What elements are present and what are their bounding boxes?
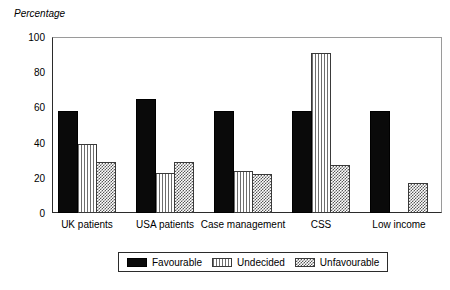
x-axis-label-uk-patients: UK patients: [61, 219, 113, 230]
legend-swatch-unfavourable-icon: [295, 258, 315, 267]
bar-unfavourable-usa-patients: [174, 162, 194, 213]
y-axis-tick-label: 80: [0, 67, 45, 78]
bar-favourable-case-management: [214, 111, 234, 213]
y-axis-tick-label: 100: [0, 32, 45, 43]
legend-label: Unfavourable: [320, 257, 379, 268]
x-axis-label-usa-patients: USA patients: [136, 219, 194, 230]
bar-favourable-css: [292, 111, 312, 213]
x-axis-label-low-income: Low income: [372, 219, 425, 230]
legend-entry-unfavourable: Unfavourable: [295, 257, 379, 268]
x-axis-label-css: CSS: [311, 219, 332, 230]
bar-favourable-low-income: [370, 111, 390, 213]
x-axis-label-case-management: Case management: [201, 219, 286, 230]
y-axis-tick-label: 20: [0, 172, 45, 183]
y-axis-tick-label: 0: [0, 208, 45, 219]
legend-entry-favourable: Favourable: [127, 257, 202, 268]
chart-legend: FavourableUndecidedUnfavourable: [118, 252, 388, 272]
legend-label: Favourable: [152, 257, 202, 268]
bar-undecided-case-management: [233, 171, 253, 213]
bar-unfavourable-low-income: [408, 183, 428, 213]
bar-favourable-uk-patients: [58, 111, 78, 213]
y-axis-title: Percentage: [14, 8, 65, 19]
y-axis-tick-label: 60: [0, 102, 45, 113]
legend-label: Undecided: [237, 257, 285, 268]
bar-undecided-css: [311, 53, 331, 213]
y-axis-tick-label: 40: [0, 137, 45, 148]
legend-entry-undecided: Undecided: [212, 257, 285, 268]
legend-swatch-favourable-icon: [127, 258, 147, 267]
bar-chart: Percentage 020406080100 UK patientsUSA p…: [0, 0, 450, 290]
legend-swatch-undecided-icon: [212, 258, 232, 267]
bar-unfavourable-case-management: [252, 174, 272, 213]
bar-favourable-usa-patients: [136, 99, 156, 213]
bar-unfavourable-css: [330, 165, 350, 213]
bar-undecided-usa-patients: [155, 173, 175, 213]
bar-undecided-uk-patients: [77, 144, 97, 213]
bar-unfavourable-uk-patients: [96, 162, 116, 213]
